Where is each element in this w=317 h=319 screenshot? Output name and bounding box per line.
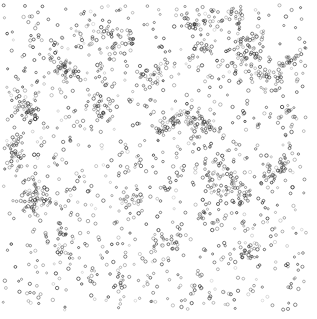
scatter-plot-figure [0,0,317,319]
scatter-plot-canvas [0,0,317,319]
